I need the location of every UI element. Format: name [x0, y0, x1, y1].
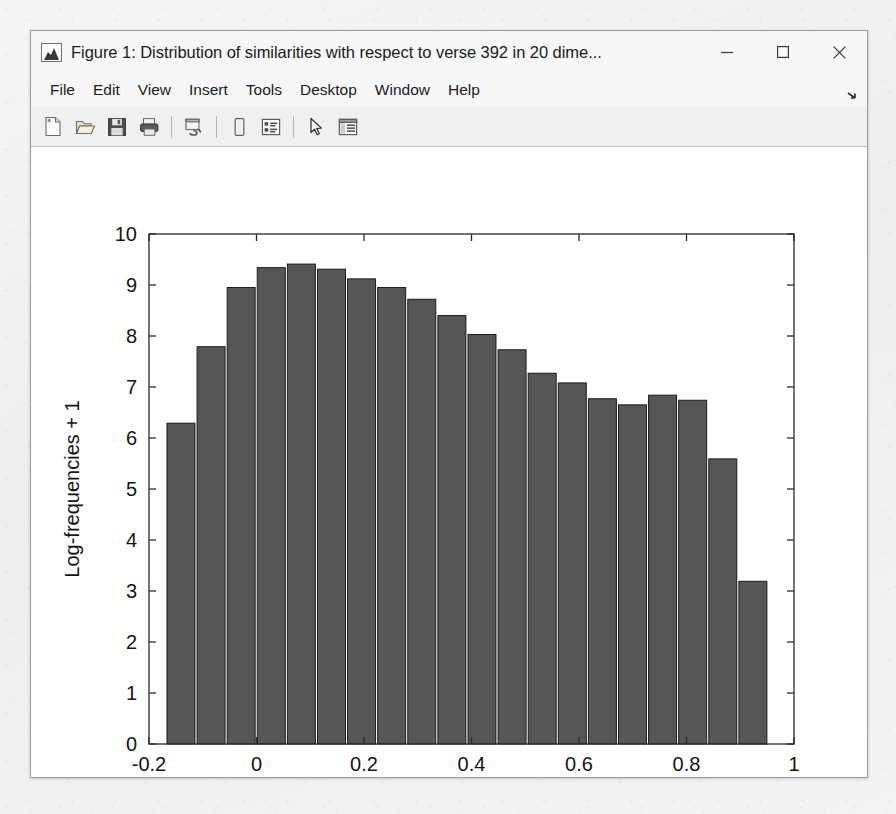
menu-insert[interactable]: Insert: [180, 78, 237, 102]
x-tick-label: 0.2: [350, 753, 378, 775]
y-tick-label: 0: [126, 733, 137, 755]
x-tick-label: 0.6: [565, 753, 593, 775]
menu-file[interactable]: File: [41, 78, 84, 102]
bar: [468, 334, 496, 744]
x-tick-label: 0: [251, 753, 262, 775]
bar: [378, 288, 406, 744]
histogram-plot: -0.200.20.40.60.81 012345678910 Cosine A…: [31, 147, 867, 777]
bar: [709, 459, 737, 744]
window-title: Figure 1: Distribution of similarities w…: [71, 43, 602, 62]
bar: [528, 373, 556, 744]
x-tick-label: 0.8: [673, 753, 701, 775]
y-tick-label: 9: [126, 274, 137, 296]
y-tick-label: 5: [126, 478, 137, 500]
y-tick-label: 1: [126, 682, 137, 704]
menu-view[interactable]: View: [129, 78, 180, 102]
bar: [197, 347, 225, 744]
bar: [287, 264, 315, 744]
menu-window[interactable]: Window: [366, 78, 439, 102]
bar: [588, 399, 616, 744]
open-file-icon[interactable]: [70, 113, 100, 141]
x-tick-label: 0.4: [458, 753, 486, 775]
x-tick-labels: -0.200.20.40.60.81: [132, 753, 800, 775]
toolbar-separator-2: [216, 116, 217, 138]
bar: [227, 288, 255, 744]
y-tick-label: 4: [126, 529, 137, 551]
bar: [558, 383, 586, 744]
figure-window: Figure 1: Distribution of similarities w…: [30, 30, 868, 778]
minimize-button[interactable]: [699, 31, 755, 73]
new-figure-icon[interactable]: [38, 113, 68, 141]
colorbar-icon[interactable]: [224, 113, 254, 141]
close-button[interactable]: [811, 31, 867, 73]
bar: [498, 350, 526, 744]
window-titlebar: Figure 1: Distribution of similarities w…: [31, 31, 867, 73]
y-tick-label: 8: [126, 325, 137, 347]
y-tick-label: 7: [126, 376, 137, 398]
x-tick-label: 1: [788, 753, 799, 775]
y-tick-label: 6: [126, 427, 137, 449]
menu-desktop[interactable]: Desktop: [291, 78, 366, 102]
bar: [679, 400, 707, 744]
bar: [167, 423, 195, 744]
figure-canvas: -0.200.20.40.60.81 012345678910 Cosine A…: [31, 147, 867, 777]
bar: [649, 395, 677, 744]
menu-help[interactable]: Help: [439, 78, 489, 102]
plot-browser-icon[interactable]: [333, 113, 363, 141]
matlab-membrane-icon: [41, 43, 62, 62]
legend-icon[interactable]: [256, 113, 286, 141]
bar: [438, 316, 466, 744]
figure-toolbar: [31, 107, 867, 147]
menu-edit[interactable]: Edit: [84, 78, 129, 102]
menu-tools[interactable]: Tools: [237, 78, 291, 102]
maximize-button[interactable]: [755, 31, 811, 73]
save-figure-icon[interactable]: [102, 113, 132, 141]
edit-plot-pointer-icon[interactable]: [301, 113, 331, 141]
y-tick-label: 10: [115, 223, 137, 245]
bar-series: [167, 264, 767, 744]
print-figure-icon[interactable]: [134, 113, 164, 141]
x-tick-label: -0.2: [132, 753, 166, 775]
bar: [348, 279, 376, 744]
y-tick-labels: 012345678910: [115, 223, 137, 755]
bar: [408, 299, 436, 744]
toolbar-separator-3: [293, 116, 294, 138]
bar: [739, 581, 767, 744]
bar: [618, 405, 646, 744]
y-tick-label: 2: [126, 631, 137, 653]
window-controls: [699, 31, 867, 73]
menubar: File Edit View Insert Tools Desktop Wind…: [31, 73, 867, 107]
bar: [317, 269, 345, 744]
overflow-arrow-icon[interactable]: [846, 88, 858, 100]
y-tick-label: 3: [126, 580, 137, 602]
link-plot-icon[interactable]: [179, 113, 209, 141]
y-axis-label: Log-frequencies + 1: [61, 400, 83, 577]
bar: [257, 268, 285, 744]
toolbar-separator-1: [171, 116, 172, 138]
